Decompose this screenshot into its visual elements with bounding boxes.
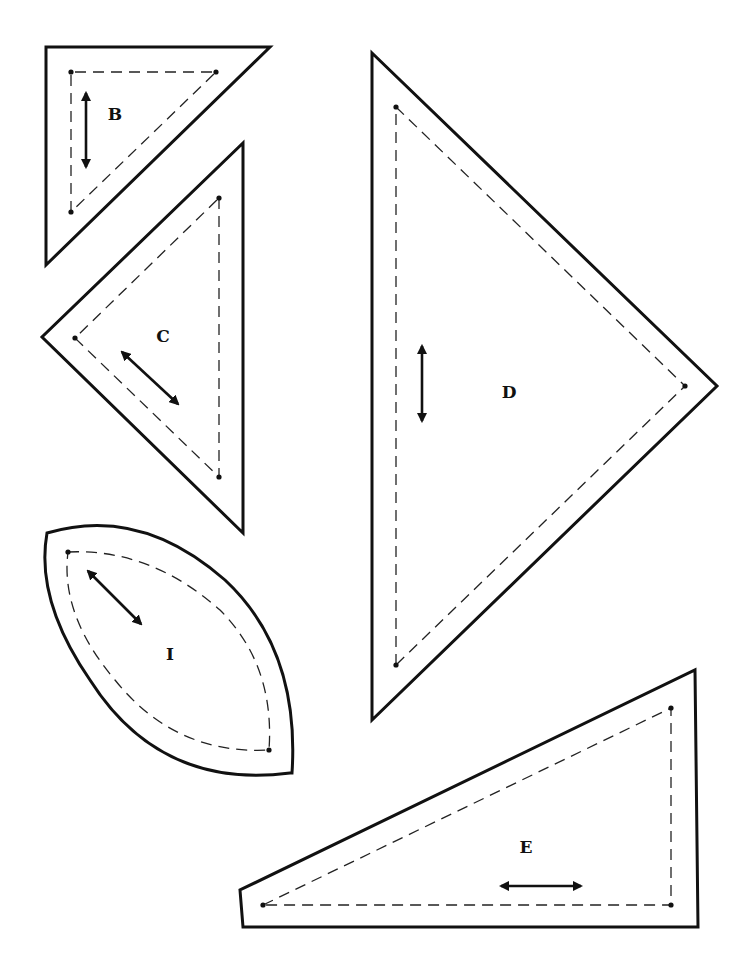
corner-dot xyxy=(393,104,398,109)
piece-label-d: D xyxy=(502,382,517,402)
piece-d-sewing-line xyxy=(396,107,685,665)
grain-arrow-icon xyxy=(122,352,178,404)
corner-dot xyxy=(393,662,398,667)
piece-e-cutting-line xyxy=(240,670,698,927)
piece-label-b: B xyxy=(108,104,122,124)
piece-i: I xyxy=(45,525,293,775)
piece-d: D xyxy=(372,53,717,720)
corner-dot xyxy=(216,474,221,479)
corner-dot xyxy=(682,383,687,388)
corner-dot xyxy=(72,335,77,340)
piece-e-sewing-line xyxy=(263,708,671,905)
piece-c-sewing-line xyxy=(75,198,219,477)
piece-label-i: I xyxy=(166,644,174,664)
piece-d-cutting-line xyxy=(372,53,717,720)
piece-b: B xyxy=(46,47,270,265)
piece-b-cutting-line xyxy=(46,47,270,265)
piece-c-cutting-line xyxy=(42,143,243,533)
pattern-sheet: B C I D E xyxy=(0,0,752,961)
piece-label-e: E xyxy=(520,837,533,857)
corner-dot xyxy=(213,69,218,74)
corner-dot xyxy=(668,902,673,907)
corner-dot xyxy=(68,69,73,74)
piece-e: E xyxy=(240,670,698,927)
corner-dot xyxy=(266,747,271,752)
corner-dot xyxy=(260,902,265,907)
corner-dot xyxy=(65,549,70,554)
corner-dot xyxy=(216,195,221,200)
corner-dot xyxy=(68,209,73,214)
grain-arrow-icon xyxy=(88,571,141,624)
piece-c: C xyxy=(42,143,243,533)
piece-label-c: C xyxy=(156,326,170,346)
corner-dot xyxy=(668,705,673,710)
